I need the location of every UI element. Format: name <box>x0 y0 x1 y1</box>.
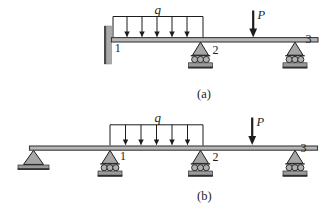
diagram-a: q P 1 2 3 (a) <box>104 2 318 101</box>
point-load-a <box>249 11 257 38</box>
distributed-load-label-b: q <box>155 110 162 125</box>
pin-support-b-left <box>18 150 50 170</box>
point-load-b <box>248 118 256 145</box>
roller-support-a2 <box>188 42 213 68</box>
wall-edge <box>104 26 106 64</box>
node-label-a1: 1 <box>115 41 121 55</box>
node-label-a2: 2 <box>213 43 219 57</box>
beam-a <box>112 38 319 42</box>
node-label-b2: 2 <box>213 150 219 164</box>
point-load-label-a: P <box>257 8 266 22</box>
caption-a: (a) <box>197 87 211 101</box>
node-label-a3: 3 <box>306 32 312 46</box>
node-label-b1: 1 <box>120 149 126 163</box>
figure-canvas: q P 1 2 3 (a) <box>0 0 324 217</box>
point-load-head <box>249 29 257 38</box>
roller-support-b1 <box>98 150 123 176</box>
distributed-load-label-a: q <box>155 2 162 17</box>
point-load-head <box>248 136 256 145</box>
diagram-b: q P 1 2 3 (b) <box>18 110 318 203</box>
caption-b: (b) <box>197 189 212 203</box>
point-load-label-b: P <box>256 115 265 129</box>
load-arrows-b <box>126 125 188 145</box>
roller-support-a3 <box>283 42 308 68</box>
fixed-support-wall <box>104 26 112 64</box>
distributed-load-b <box>110 125 203 146</box>
distributed-load-a <box>113 17 203 38</box>
load-arrows-a <box>127 17 187 37</box>
node-label-b3: 3 <box>301 141 307 155</box>
beam-diagram-svg: q P 1 2 3 (a) <box>0 0 324 217</box>
roller-support-b2 <box>188 150 213 176</box>
beam-b <box>30 146 318 150</box>
